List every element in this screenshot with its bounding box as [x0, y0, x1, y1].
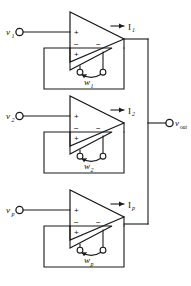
stage-1-weight-label-text: w — [84, 77, 90, 87]
stage-3-group — [16, 190, 124, 267]
stage-2-input-label: v 2 — [6, 111, 15, 123]
stage-2-inner-minus-sign: − — [74, 124, 79, 133]
output-label: v out — [175, 118, 188, 130]
output-label-text: v — [175, 118, 179, 128]
stage-3-weight-label-sub: p — [90, 261, 94, 267]
stage-1-current-label-text: I — [128, 22, 131, 32]
circuit-svg: + − − + + − − + + − − + v 1 v 2 — [0, 0, 191, 286]
output-label-sub: out — [180, 124, 188, 130]
stage-3-input-terminal — [16, 206, 23, 213]
stage-1-input-label: v 1 — [6, 27, 15, 39]
stage-1-weight-label: w 1 — [84, 77, 94, 89]
stage-1-current-label-sub: 1 — [132, 27, 135, 33]
stage-3-amp-plus-sign: + — [74, 206, 79, 215]
stage-3-amp-minus-sign: − — [96, 218, 101, 227]
stage-1-group — [16, 12, 124, 89]
stage-2-current-label: I 2 — [128, 106, 135, 118]
stage-3-input-label: v p — [6, 205, 15, 217]
stage-2-input-label-sub: 2 — [12, 117, 15, 123]
stage-2-current-label-sub: 2 — [132, 111, 135, 117]
stage-1-amp-plus-sign: + — [74, 28, 79, 37]
stage-2-weight-label-text: w — [84, 161, 90, 171]
stage-3-current-label-text: I — [128, 200, 131, 210]
text-labels: v 1 v 2 v p I 1 I 2 I p — [6, 22, 188, 267]
stage-3-input-label-sub: p — [11, 211, 15, 217]
stage-1-input-label-text: v — [6, 27, 10, 37]
stage-1-inner-plus-sign: + — [74, 50, 79, 59]
stage-1-input-terminal — [16, 28, 23, 35]
stage-3-inner-plus-sign: + — [74, 228, 79, 237]
stage-3-weight-label: w p — [84, 255, 94, 267]
output-bus — [124, 39, 148, 224]
stage-3-potentiometer — [77, 230, 106, 256]
stage-1-inner-minus-sign: − — [74, 40, 79, 49]
stage-3-current-label: I p — [128, 200, 135, 212]
stage-2-amp-plus-sign: + — [74, 112, 79, 121]
stage-2-current-label-text: I — [128, 106, 131, 116]
stage-3-input-label-text: v — [6, 205, 10, 215]
stage-3-inner-minus-sign: − — [74, 218, 79, 227]
stage-2-group — [16, 96, 173, 173]
output-terminal — [166, 119, 173, 126]
stage-2-inner-plus-sign: + — [74, 134, 79, 143]
stage-2-input-terminal — [16, 112, 23, 119]
stage-2-weight-label: w 2 — [84, 161, 94, 173]
stage-1-current-arrow — [111, 23, 124, 28]
stage-2-input-label-text: v — [6, 111, 10, 121]
stage-1-amp-minus-sign: − — [96, 40, 101, 49]
stage-1-current-label: I 1 — [128, 22, 135, 34]
circuit-diagram: + − − + + − − + + − − + v 1 v 2 — [0, 0, 191, 286]
stage-2-amp-minus-sign: − — [96, 124, 101, 133]
stage-2-current-arrow — [111, 107, 124, 112]
stage-1-potentiometer — [77, 52, 106, 78]
stage-1-weight-label-sub: 1 — [91, 83, 94, 89]
stage-3-current-arrow — [111, 201, 124, 206]
stage-1-input-label-sub: 1 — [12, 33, 15, 39]
stage-2-weight-label-sub: 2 — [91, 167, 94, 173]
stage-3-weight-label-text: w — [84, 255, 90, 265]
stage-3-current-label-sub: p — [131, 205, 135, 211]
stage-2-potentiometer — [77, 136, 106, 162]
